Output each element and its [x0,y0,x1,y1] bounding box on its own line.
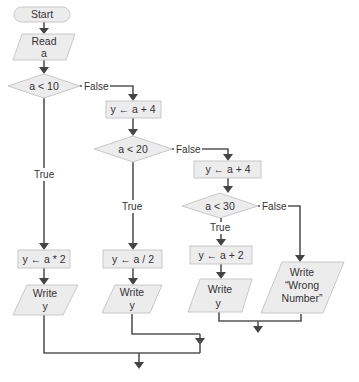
process-y-eq-a-plus-4-first: y ← a + 4 [106,101,161,118]
decision-a-lt-20: a < 20 [94,136,172,162]
write-y-1-variable: y [42,300,48,312]
process-y-eq-a-div-2: y ← a / 2 [103,250,162,268]
start-terminator: Start [14,7,70,22]
read-variable: a [41,47,47,59]
decision-a-lt-30-true-label: True [210,222,231,233]
decision-a-lt-10-true-label: True [34,169,55,180]
write-wrong-line3: Number” [282,292,323,304]
read-input-parallelogram: Read a [13,34,75,60]
write-y-2-label: Write [120,286,144,298]
write-y-2-variable: y [129,299,135,311]
write-y-1-label: Write [33,287,57,299]
write-y-output-1: Write y [13,285,78,315]
process-y-eq-a-div-2-label: y ← a / 2 [112,253,154,265]
flowchart-canvas: Start Read a a < 10 False True y ← a + 4… [0,0,359,382]
decision-a-lt-10: a < 10 [8,74,80,98]
decision-a-lt-30: a < 30 [182,193,258,218]
write-wrong-label: Write [290,266,314,278]
decision-a-lt-20-true-label: True [122,201,143,212]
process-y-eq-a-plus-4-first-label: y ← a + 4 [110,103,155,115]
decision-a-lt-10-label: a < 10 [29,80,59,92]
read-label: Read [31,35,56,47]
start-label: Start [31,8,53,20]
decision-a-lt-10-false-label: False [84,81,109,92]
decision-a-lt-20-label: a < 20 [118,143,148,155]
write-y-output-3: Write y [188,279,252,312]
write-wrong-line2: “Wrong [285,279,319,291]
process-y-eq-a-times-2-label: y ← a * 2 [22,253,65,265]
process-y-eq-a-plus-2: y ← a + 2 [190,246,252,264]
process-y-eq-a-plus-4-second: y ← a + 4 [194,161,261,178]
process-y-eq-a-plus-2-label: y ← a + 2 [198,249,243,261]
decision-a-lt-30-false-label: False [262,201,287,212]
connectors [39,22,305,369]
write-y-3-label: Write [208,283,232,295]
write-wrong-number-output: Write “Wrong Number” [261,262,344,313]
decision-a-lt-30-label: a < 30 [205,200,235,212]
write-y-output-2: Write y [102,285,162,313]
process-y-eq-a-times-2: y ← a * 2 [18,250,70,268]
write-y-3-variable: y [215,297,221,309]
decision-a-lt-20-false-label: False [176,144,201,155]
process-y-eq-a-plus-4-second-label: y ← a + 4 [205,163,250,175]
